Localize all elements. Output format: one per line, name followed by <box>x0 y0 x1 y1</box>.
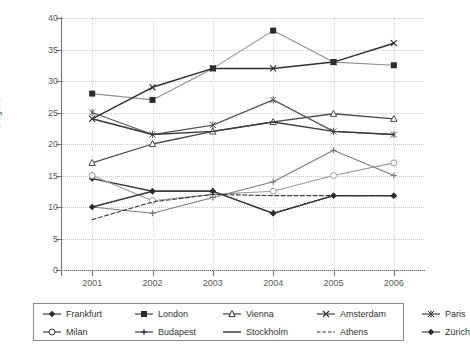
x-tick-label: 2006 <box>374 279 414 288</box>
legend-symbol-x-cross <box>316 309 336 319</box>
legend-item-budapest[interactable]: Budapest <box>134 323 222 341</box>
gridline-horizontal <box>62 270 424 271</box>
legend-item-label: Frankfurt <box>66 309 102 319</box>
legend-item-zürich[interactable]: Zürich <box>421 323 470 341</box>
legend-item-label: Stockholm <box>246 327 288 337</box>
series-layer <box>62 18 424 270</box>
legend-symbol-asterisk <box>421 309 441 319</box>
legend-symbol-filled-square <box>134 309 154 319</box>
legend-item-label: London <box>158 309 188 319</box>
legend-symbol-open-triangle <box>222 309 242 319</box>
chart-legend: FrankfurtLondonViennaAmsterdamParisMilan… <box>33 303 404 341</box>
x-tick-mark <box>213 271 214 276</box>
series-milan <box>89 160 397 204</box>
series-budapest <box>89 147 397 216</box>
legend-item-athens[interactable]: Athens <box>316 323 421 341</box>
legend-item-vienna[interactable]: Vienna <box>222 305 316 323</box>
y-axis-label: Degree <box>0 98 2 128</box>
x-tick-mark <box>394 271 395 276</box>
y-tick-label: 5 <box>32 235 58 244</box>
legend-symbol-plus <box>134 327 154 337</box>
series-london <box>89 28 397 103</box>
legend-item-label: Zürich <box>445 327 470 337</box>
legend-item-paris[interactable]: Paris <box>421 305 470 323</box>
y-tick-label: 0 <box>32 266 58 275</box>
legend-item-label: Athens <box>340 327 368 337</box>
legend-symbol-open-circle <box>42 327 62 337</box>
legend-grid: FrankfurtLondonViennaAmsterdamParisMilan… <box>34 304 403 341</box>
y-tick-label: 10 <box>32 203 58 212</box>
x-tick-label: 2001 <box>72 279 112 288</box>
legend-item-label: Paris <box>445 309 466 319</box>
legend-item-frankfurt[interactable]: Frankfurt <box>42 305 134 323</box>
x-tick-label: 2005 <box>314 279 354 288</box>
x-tick-label: 2004 <box>253 279 293 288</box>
legend-item-label: Vienna <box>246 309 274 319</box>
y-tick-label: 30 <box>32 77 58 86</box>
legend-item-label: Amsterdam <box>340 309 386 319</box>
x-tick-mark <box>92 271 93 276</box>
y-tick-label: 40 <box>32 14 58 23</box>
legend-symbol-none <box>222 327 242 337</box>
y-tick-label: 20 <box>32 140 58 149</box>
x-tick-mark <box>334 271 335 276</box>
y-tick-label: 25 <box>32 109 58 118</box>
legend-item-label: Milan <box>66 327 88 337</box>
x-tick-label: 2002 <box>133 279 173 288</box>
x-tick-mark <box>153 271 154 276</box>
legend-item-label: Budapest <box>158 327 196 337</box>
legend-item-london[interactable]: London <box>134 305 222 323</box>
legend-item-amsterdam[interactable]: Amsterdam <box>316 305 421 323</box>
x-tick-label: 2003 <box>193 279 233 288</box>
series-athens <box>92 194 394 219</box>
y-tick-label: 15 <box>32 172 58 181</box>
y-tick-label: 35 <box>32 46 58 55</box>
x-tick-mark <box>273 271 274 276</box>
plot-area: Degree 0510152025303540 2001200220032004… <box>0 0 439 296</box>
legend-symbol-filled-diamond <box>421 327 441 337</box>
series-amsterdam <box>89 40 397 122</box>
series-stockholm <box>92 119 394 135</box>
legend-symbol-dashed-line <box>316 327 336 337</box>
plot-canvas <box>62 18 424 270</box>
legend-item-stockholm[interactable]: Stockholm <box>222 323 316 341</box>
legend-symbol-small-filled-diamond <box>42 309 62 319</box>
legend-item-milan[interactable]: Milan <box>42 323 134 341</box>
x-tick-mark-origin <box>61 271 62 276</box>
